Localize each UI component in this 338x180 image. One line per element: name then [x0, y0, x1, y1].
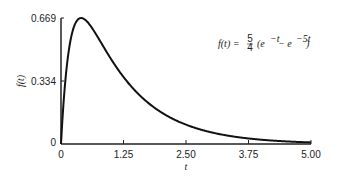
formula-annotation: f(t) = 5 4 (e −t − e −5t ) — [218, 33, 311, 53]
x-tick-label: 1.25 — [114, 149, 134, 160]
x-tick-label: 5.00 — [301, 149, 321, 160]
formula-text: − e — [278, 38, 292, 49]
x-tick-label: 2.50 — [176, 149, 196, 160]
chart: 0.669 0.334 0 0 1.25 2.50 3.75 5.00 t f(… — [0, 0, 338, 180]
y-axis-label: f(t) — [15, 74, 27, 87]
x-axis-label: t — [185, 161, 188, 172]
formula-lhs: f(t) = — [218, 38, 239, 50]
y-tick-label: 0.669 — [31, 13, 56, 24]
x-tick-label: 0 — [58, 149, 64, 160]
formula-text: ) — [305, 38, 310, 50]
y-tick-label: 0.334 — [31, 76, 56, 87]
y-tick-label: 0 — [50, 137, 56, 148]
x-tick-label: 3.75 — [239, 149, 259, 160]
formula-denominator: 4 — [247, 42, 253, 53]
formula-text: (e — [257, 38, 265, 50]
